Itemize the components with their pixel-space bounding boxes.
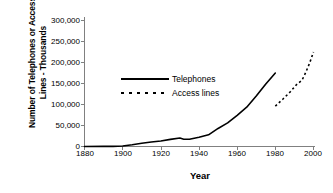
y-axis-ticks: [81, 21, 85, 147]
series-line-access-lines: [275, 52, 313, 106]
chart-container: Number of Telephones or Access Lines - T…: [0, 0, 333, 193]
x-axis-ticks: [85, 147, 314, 151]
series-line-telephones: [85, 73, 276, 147]
plot-area: [0, 0, 333, 193]
